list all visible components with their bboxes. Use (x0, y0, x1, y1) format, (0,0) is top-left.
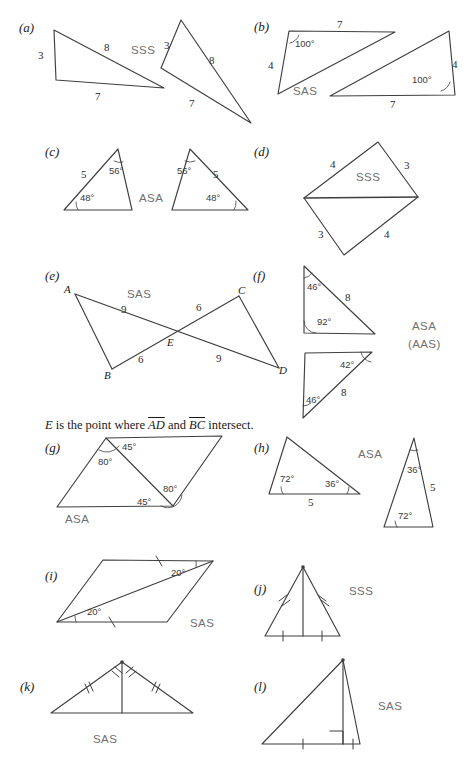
part-label-e: (e) (45, 268, 59, 284)
figure-c-criterion: ASA (139, 192, 163, 204)
figure-a-side-7-right: 7 (189, 97, 195, 109)
part-label-l: (l) (254, 679, 266, 695)
figure-k-criterion: SAS (93, 733, 117, 745)
figure-d-side-4-bottom: 4 (384, 228, 390, 240)
figure-j-apex-dot (301, 565, 305, 569)
figure-f-side-8-top: 8 (345, 291, 351, 303)
figure-sheet: (a) 3 8 7 SSS 3 8 7 (b) 7 100° 4 SAS 100… (0, 0, 466, 774)
figure-f-angle-42: 42° (340, 359, 354, 370)
figure-d-criterion: SSS (356, 171, 380, 183)
figure-e-side-6-CE: 6 (196, 301, 202, 313)
figure-a-side-7-left: 7 (95, 90, 101, 102)
figure-a-triangle-2 (161, 20, 251, 123)
figure-b-side-4-left: 4 (268, 59, 274, 71)
part-label-h: (h) (254, 440, 269, 456)
part-label-j: (j) (254, 581, 266, 597)
figure-e-vertex-E: E (167, 336, 174, 348)
figure-c-triangle-1 (64, 149, 132, 210)
figure-e-vertex-A: A (64, 283, 71, 295)
part-label-c: (c) (45, 144, 59, 160)
figure-d-side-3-bottom: 3 (318, 228, 324, 240)
figure-c-angle-48-right: 48° (206, 192, 220, 203)
note-segment-BC: BC (189, 418, 205, 432)
figure-c-side-5-left: 5 (81, 168, 87, 180)
figure-j-isosceles-triangle (265, 567, 340, 641)
figure-c-side-5-right: 5 (213, 168, 219, 180)
figure-a-triangle-1 (54, 30, 164, 88)
figure-g-angle-80-bottom: 80° (163, 483, 177, 494)
figure-i-angle-20-bottom: 20° (87, 606, 101, 617)
part-label-f: (f) (253, 268, 265, 284)
figure-f-criterion-alt: (AAS) (408, 338, 441, 350)
figure-c-angle-56-left: 56° (109, 165, 123, 176)
figure-l-apex-dot (341, 658, 345, 662)
figure-g-criterion: ASA (65, 513, 89, 525)
figure-h-angle-36-right: 36° (407, 464, 421, 475)
figure-e-criterion: SAS (127, 288, 151, 300)
note-text-mid: and (165, 418, 189, 432)
figure-d-side-3-top: 3 (404, 159, 410, 171)
figure-c-angle-48-left: 48° (80, 192, 94, 203)
figure-g-angle-80-top: 80° (98, 456, 112, 467)
figure-b-angle-100-right: 100° (412, 74, 432, 85)
figure-e-crossed-triangles (75, 294, 279, 369)
figure-f-angle-46-top: 46° (307, 281, 321, 292)
figure-f-triangle-2 (303, 352, 372, 418)
figure-f-angle-46-bottom: 46° (306, 394, 320, 405)
figure-e-vertex-B: B (104, 369, 111, 381)
figure-h-side-5-left: 5 (308, 496, 314, 508)
figure-b-angle-100-left: 100° (295, 38, 315, 49)
figure-l-criterion: SAS (378, 700, 402, 712)
figure-f-criterion: ASA (412, 320, 436, 332)
figure-b-side-7-left: 7 (337, 18, 343, 30)
part-label-k: (k) (20, 679, 34, 695)
figure-k-apex-dot (120, 660, 124, 664)
note-text-before: is the point where (53, 418, 148, 432)
part-label-i: (i) (45, 568, 57, 584)
figure-h-angle-72-right: 72° (398, 510, 412, 521)
intersection-note: E is the point where AD and BC intersect… (45, 418, 254, 433)
figure-a-side-8-right: 8 (209, 54, 215, 66)
figure-b-criterion: SAS (293, 85, 317, 97)
part-label-d: (d) (254, 144, 269, 160)
figure-e-vertex-C: C (238, 284, 245, 296)
figure-h-angle-36-left: 36° (325, 478, 339, 489)
figure-e-vertex-D: D (279, 364, 287, 376)
part-label-b: (b) (254, 19, 269, 35)
figure-b-side-4-right: 4 (452, 58, 458, 70)
figure-f-angle-92: 92° (317, 316, 331, 327)
figure-j-criterion: SSS (349, 585, 373, 597)
figure-h-triangle-1 (269, 437, 360, 494)
figure-e-side-6-BE: 6 (138, 353, 144, 365)
figure-a-side-8-left: 8 (104, 41, 110, 53)
figure-g-angle-45-bottom: 45° (137, 496, 151, 507)
part-label-g: (g) (45, 440, 60, 456)
figure-h-angle-72-left: 72° (280, 473, 294, 484)
figure-f-triangle-1 (304, 266, 375, 334)
part-label-a: (a) (19, 20, 34, 36)
figure-c-angle-56-right: 56° (177, 165, 191, 176)
figure-e-side-9-AE: 9 (121, 303, 127, 315)
figure-a-criterion: SSS (131, 44, 155, 56)
figure-b-triangle-2 (330, 31, 455, 96)
note-text-after: intersect. (205, 418, 254, 432)
figure-l-isosceles-triangle (262, 660, 360, 749)
note-point-label: E (45, 418, 53, 432)
figure-i-angle-20-top: 20° (171, 567, 185, 578)
figure-a-side-3-left: 3 (38, 49, 44, 61)
figure-g-angle-45-top: 45° (122, 441, 136, 452)
geometry-drawings (0, 0, 466, 774)
figure-a-side-3-right: 3 (164, 39, 170, 51)
note-segment-AD: AD (148, 418, 165, 432)
figure-e-side-9-ED: 9 (216, 352, 222, 364)
figure-b-side-7-right: 7 (390, 98, 396, 110)
figure-d-side-4-top: 4 (330, 158, 336, 170)
figure-f-side-8-bottom: 8 (341, 386, 347, 398)
figure-h-side-5-right: 5 (430, 481, 436, 493)
figure-k-isosceles-triangle (51, 662, 193, 713)
figure-h-criterion: ASA (358, 448, 382, 460)
figure-i-criterion: SAS (190, 617, 214, 629)
